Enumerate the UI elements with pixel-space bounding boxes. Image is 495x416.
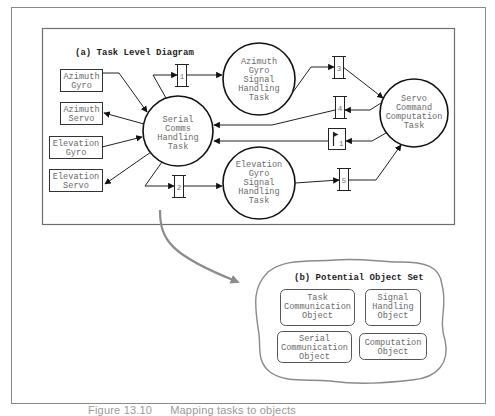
object-serial-communication: Serial Communication Object xyxy=(278,332,352,363)
mapping-arrow xyxy=(160,210,238,282)
task-elevation-gyro-signal-handling: Elevation Gyro Signal Handling Task xyxy=(223,147,295,219)
svg-text:Task: Task xyxy=(168,142,189,152)
object-signal-handling: Signal Handling Object xyxy=(366,290,421,326)
task-serial-comms-handling: Serial Comms Handling Task xyxy=(143,96,213,166)
object-set-title: (b) Potential Object Set xyxy=(294,273,424,283)
task-azimuth-gyro-signal-handling: Azimuth Gyro Signal Handling Task xyxy=(223,43,295,115)
svg-text:Servo: Servo xyxy=(63,181,89,191)
svg-text:2: 2 xyxy=(177,184,182,192)
figure-caption-number: Figure 13.10 xyxy=(88,404,152,416)
device-elevation-gyro: Elevation Gyro xyxy=(50,137,103,159)
flag-1-icon: 1 xyxy=(329,129,346,150)
task-servo-command-computation: Servo Command Computation Task xyxy=(380,79,448,147)
svg-text:4: 4 xyxy=(338,105,343,113)
device-elevation-servo: Elevation Servo xyxy=(50,170,103,192)
svg-text:5: 5 xyxy=(342,177,347,185)
svg-text:Task: Task xyxy=(404,121,425,131)
device-azimuth-servo: Azimuth Servo xyxy=(61,103,103,125)
device-azimuth-gyro: Azimuth Gyro xyxy=(61,70,103,92)
svg-text:Task: Task xyxy=(249,93,270,103)
queue-4-icon: 4 xyxy=(333,97,347,119)
object-task-communication: Task Communication Object xyxy=(281,290,355,326)
svg-text:Object: Object xyxy=(299,352,330,362)
svg-text:Object: Object xyxy=(302,311,333,321)
svg-text:1: 1 xyxy=(339,140,344,148)
svg-text:3: 3 xyxy=(337,65,342,73)
svg-text:Servo: Servo xyxy=(69,114,95,124)
figure-caption: Figure 13.10Mapping tasks to objects xyxy=(88,404,296,416)
object-computation: Computation Object xyxy=(360,334,427,360)
svg-text:Object: Object xyxy=(378,347,409,357)
svg-text:Task: Task xyxy=(249,196,270,206)
svg-text:1: 1 xyxy=(180,73,185,81)
svg-text:Gyro: Gyro xyxy=(71,81,92,91)
svg-text:Gyro: Gyro xyxy=(66,148,87,158)
svg-text:Object: Object xyxy=(378,311,409,321)
figure-caption-text: Mapping tasks to objects xyxy=(170,404,296,416)
task-diagram-title: (a) Task Level Diagram xyxy=(75,48,194,58)
